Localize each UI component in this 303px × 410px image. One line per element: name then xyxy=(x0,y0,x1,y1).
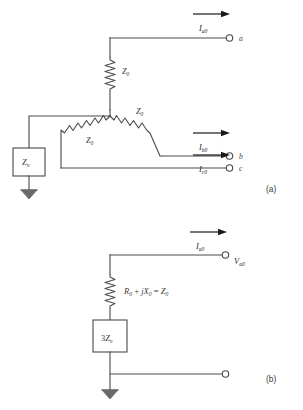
panel-a: a b c Ia0 Ib0 Ic0 Z0 xyxy=(13,11,276,199)
current-a0-label: Ia0 xyxy=(198,24,208,34)
impedance-phase-b-label: Z0 xyxy=(86,136,94,146)
panel-b-label: (b) xyxy=(266,374,276,384)
wire-neutral-to-zn xyxy=(29,116,110,148)
panel-a-label: (a) xyxy=(266,184,276,194)
impedance-phase-a-label: Z0 xyxy=(122,67,130,77)
panel-b: Ia0 Va0 R0 + jX0 = Z0 3Zn (b) xyxy=(93,229,276,399)
ground-symbol xyxy=(21,190,37,199)
voltage-terminal-b[interactable] xyxy=(222,252,228,258)
terminal-a-label: a xyxy=(239,34,243,43)
impedance-phase-a xyxy=(105,57,115,110)
terminal-c-label: c xyxy=(239,164,243,173)
series-impedance-equation: R0 + jX0 = Z0 xyxy=(123,286,169,297)
terminal-a[interactable] xyxy=(226,35,232,41)
circuit-figure: a b c Ia0 Ib0 Ic0 Z0 xyxy=(0,0,303,410)
current-arrow-a0-b xyxy=(190,229,227,236)
current-c0-label: Ic0 xyxy=(198,165,207,175)
current-a0-label-b: Ia0 xyxy=(195,242,205,252)
current-b0-label: Ib0 xyxy=(198,143,208,153)
neutral-impedance-box-b xyxy=(93,320,127,352)
terminal-b-label: b xyxy=(239,152,243,161)
current-arrow-b0 xyxy=(193,130,230,137)
impedance-phase-c-diagonal xyxy=(110,116,226,157)
reference-terminal[interactable] xyxy=(222,371,228,377)
current-arrow-a0 xyxy=(193,11,230,18)
ground-symbol-b xyxy=(102,390,118,399)
impedance-phase-c-label: Z0 xyxy=(136,107,144,117)
voltage-a0-label: Va0 xyxy=(234,257,245,267)
series-impedance-resistor xyxy=(105,274,115,320)
current-arrow-c0 xyxy=(193,152,230,159)
terminal-c[interactable] xyxy=(226,165,232,171)
